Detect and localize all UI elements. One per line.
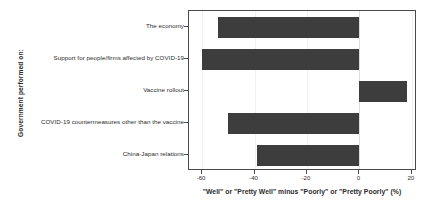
x-axis-tick-label: 20 <box>407 175 414 181</box>
x-axis-tick-label: -20 <box>302 175 311 181</box>
gridline <box>412 11 413 169</box>
y-axis-tick-labels: The economySupport for people/firms affe… <box>20 0 184 207</box>
bar <box>202 49 359 70</box>
y-axis-tick-label: Support for people/firms affected by COV… <box>20 54 184 62</box>
y-axis-tick-mark <box>184 154 188 155</box>
x-axis-tick-mark <box>254 170 255 174</box>
bar <box>218 17 360 38</box>
x-axis-tick-label: -40 <box>249 175 258 181</box>
plot-area <box>188 10 416 170</box>
x-axis-tick-label: -60 <box>197 175 206 181</box>
y-axis-tick-mark <box>184 122 188 123</box>
x-axis-tick-mark <box>201 170 202 174</box>
y-axis-tick-label: The economy <box>20 22 184 30</box>
y-axis-tick-label: Vaccine rollout <box>20 86 184 94</box>
bar-chart: Government performed on: The economySupp… <box>0 0 425 207</box>
y-axis-tick-label: China-Japan relations <box>20 150 184 158</box>
x-axis-tick-mark <box>358 170 359 174</box>
x-axis-tick-mark <box>306 170 307 174</box>
y-axis-tick-label: COVID-19 countermeasures other than the … <box>20 118 184 126</box>
x-axis-title: "Well" or "Pretty Well" minus "Poorly" o… <box>188 188 416 195</box>
gridline <box>202 11 203 169</box>
bar <box>359 81 406 102</box>
x-axis-tick-mark <box>411 170 412 174</box>
y-axis-tick-mark <box>184 58 188 59</box>
y-axis-tick-mark <box>184 26 188 27</box>
x-axis-tick-label: 0 <box>357 175 360 181</box>
y-axis-tick-mark <box>184 90 188 91</box>
bar <box>257 145 359 166</box>
bar <box>228 113 359 134</box>
